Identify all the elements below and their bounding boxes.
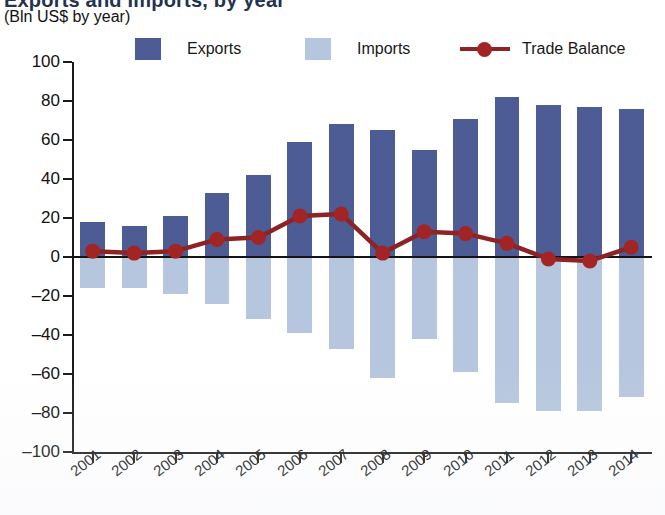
y-tick xyxy=(63,334,72,336)
y-tick xyxy=(63,139,72,141)
legend-label-trade-balance: Trade Balance xyxy=(522,40,625,58)
y-tick xyxy=(63,178,72,180)
y-tick xyxy=(63,256,72,258)
y-tick-label: 20 xyxy=(41,208,60,228)
y-tick-label: 80 xyxy=(41,91,60,111)
legend-item-exports[interactable]: Exports xyxy=(135,36,241,62)
y-tick-label: –60 xyxy=(32,364,60,384)
trade-balance-marker-2007 xyxy=(334,207,349,222)
y-tick-label: 0 xyxy=(51,247,60,267)
y-tick xyxy=(63,451,72,453)
y-tick xyxy=(63,61,72,63)
y-tick xyxy=(63,100,72,102)
plot-area: 100806040200–20–40–60–80–100 20012002200… xyxy=(72,62,652,452)
trade-balance-marker-2002 xyxy=(127,246,142,261)
legend-item-trade-balance[interactable]: Trade Balance xyxy=(460,36,625,62)
trade-balance-marker-2003 xyxy=(168,244,183,259)
trade-balance-marker-2010 xyxy=(458,226,473,241)
y-tick xyxy=(63,295,72,297)
trade-balance-marker-2012 xyxy=(541,251,556,266)
y-tick-label: –20 xyxy=(32,286,60,306)
y-tick-label: –80 xyxy=(32,403,60,423)
trade-balance-marker-2006 xyxy=(292,209,307,224)
legend-item-imports[interactable]: Imports xyxy=(305,36,410,62)
chart-legend: Exports Imports Trade Balance xyxy=(0,36,665,62)
trade-balance-marker-2014 xyxy=(624,240,639,255)
trade-balance-marker-2008 xyxy=(375,246,390,261)
y-tick-label: –40 xyxy=(32,325,60,345)
x-axis-line xyxy=(72,452,652,454)
y-tick xyxy=(63,373,72,375)
trade-balance-marker-2009 xyxy=(417,224,432,239)
legend-swatch-exports-icon xyxy=(135,38,161,60)
legend-line-marker-icon xyxy=(460,38,510,60)
y-tick xyxy=(63,412,72,414)
legend-label-imports: Imports xyxy=(357,40,410,58)
trade-balance-marker-2011 xyxy=(500,236,515,251)
y-tick xyxy=(63,217,72,219)
trade-balance-marker-2004 xyxy=(210,232,225,247)
y-tick-label: 40 xyxy=(41,169,60,189)
y-tick-label: 100 xyxy=(32,52,60,72)
chart-figure: Exports and Imports, by year (Bln US$ by… xyxy=(0,0,665,515)
trade-balance-marker-2005 xyxy=(251,230,266,245)
trade-balance-marker-2001 xyxy=(85,244,100,259)
trade-balance-line-group xyxy=(72,62,652,452)
chart-subtitle: (Bln US$ by year) xyxy=(4,8,130,26)
legend-label-exports: Exports xyxy=(187,40,241,58)
legend-swatch-imports-icon xyxy=(305,38,331,60)
y-tick-label: 60 xyxy=(41,130,60,150)
trade-balance-marker-2013 xyxy=(582,253,597,268)
y-tick-label: –100 xyxy=(22,442,60,462)
